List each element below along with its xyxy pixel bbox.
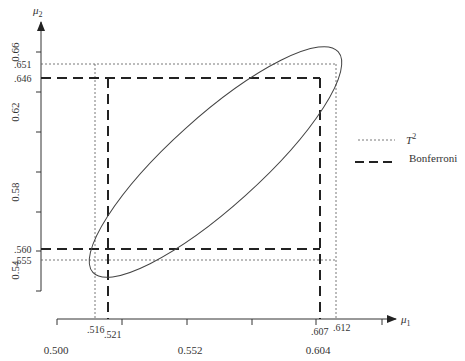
y-axis bbox=[36, 22, 41, 291]
y-annotation-646: .646 bbox=[14, 73, 32, 84]
x-axis-label: μ1 bbox=[400, 313, 411, 328]
x-annotation-612: .612 bbox=[333, 322, 351, 333]
legend: T2 Bonferroni bbox=[355, 132, 457, 164]
y-axis-label: μ2 bbox=[32, 4, 43, 19]
t2-intervals bbox=[41, 64, 336, 319]
y-annotation-560: .560 bbox=[14, 244, 32, 255]
bonferroni-intervals bbox=[41, 78, 320, 319]
legend-bonferroni-label: Bonferroni bbox=[409, 152, 457, 164]
confidence-region-chart: μ2 0.54 0.58 0.62 0.66 .651 .646 .560 .5… bbox=[0, 0, 465, 361]
y-tick-0.62: 0.62 bbox=[9, 102, 21, 121]
x-annotation-607: .607 bbox=[311, 326, 329, 337]
y-annotation-555: .555 bbox=[14, 255, 32, 266]
y-tick-0.58: 0.58 bbox=[9, 182, 21, 202]
x-tick-0.604: 0.604 bbox=[306, 344, 331, 356]
x-annotation-516: .516 bbox=[87, 324, 105, 335]
y-annotation-651: .651 bbox=[14, 59, 32, 70]
x-tick-0.500: 0.500 bbox=[44, 344, 69, 356]
x-tick-0.552: 0.552 bbox=[178, 344, 203, 356]
legend-t2-label: T2 bbox=[406, 132, 416, 146]
x-annotation-521: .521 bbox=[104, 329, 122, 340]
